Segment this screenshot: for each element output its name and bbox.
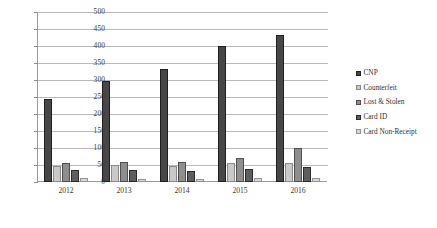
bar-chart: 0501001502002503003504004505002012201320… [0,0,437,228]
bar [120,162,128,182]
bar [160,69,168,182]
legend-label: Card ID [364,113,388,121]
bar [227,163,235,182]
legend-item[interactable]: Lost & Stolen [356,95,437,110]
y-axis-tick-label: 250 [77,93,105,101]
bar [245,169,253,182]
bar [294,148,302,182]
x-axis-tick-label: 2015 [217,186,263,195]
y-axis-tick-mark [34,182,38,183]
x-axis-tick-label: 2016 [275,186,321,195]
bar-cluster [153,12,211,182]
bar-cluster [211,12,269,182]
y-axis-tick-label: 150 [77,127,105,135]
legend-label: Lost & Stolen [364,98,405,106]
bar [53,166,61,182]
bar [303,167,311,182]
legend-item[interactable]: CNP [356,66,437,81]
y-axis-tick-label: 100 [77,144,105,152]
legend-label: CNP [364,69,378,77]
legend-label: Counterfeit [364,84,397,92]
bar [169,166,177,182]
legend: CNPCounterfeitLost & StolenCard IDCard N… [356,66,437,139]
bar [285,163,293,182]
bar [254,178,262,182]
bar [236,158,244,182]
bar [44,99,52,182]
bar [62,163,70,182]
bar [129,170,137,182]
y-axis-tick-label: 50 [77,161,105,169]
bar [218,46,226,182]
legend-item[interactable]: Counterfeit [356,81,437,96]
legend-item[interactable]: Card ID [356,110,437,125]
legend-swatch-icon [356,85,361,90]
bar [312,178,320,182]
x-axis-tick-label: 2014 [159,186,205,195]
y-axis-tick-label: 300 [77,76,105,84]
x-axis-tick-label: 2012 [43,186,89,195]
y-axis-tick-label: 0 [77,178,105,186]
y-axis-tick-label: 350 [77,59,105,67]
legend-swatch-icon [356,100,361,105]
legend-swatch-icon [356,115,361,120]
bar-cluster [269,12,327,182]
bar [196,179,204,182]
y-axis-tick-label: 200 [77,110,105,118]
legend-swatch-icon [356,129,361,134]
y-axis-tick-label: 500 [77,8,105,16]
bar [276,35,284,182]
bar [111,165,119,182]
bar [187,171,195,182]
bar [178,162,186,182]
legend-swatch-icon [356,71,361,76]
y-axis-tick-label: 400 [77,42,105,50]
legend-label: Card Non-Receipt [364,128,417,136]
y-axis-tick-label: 450 [77,25,105,33]
legend-item[interactable]: Card Non-Receipt [356,124,437,139]
bar [138,179,146,182]
x-axis-tick-label: 2013 [101,186,147,195]
